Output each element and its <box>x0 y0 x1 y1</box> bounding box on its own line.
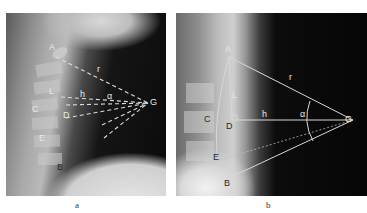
panel-caption-a: a <box>75 200 79 210</box>
label-alpha: α <box>300 110 305 119</box>
point-label-G: G <box>345 115 352 124</box>
point-label-C: C <box>32 105 39 114</box>
point-label-D: D <box>226 122 233 131</box>
point-label-B: B <box>57 163 63 172</box>
point-label-A: A <box>225 45 231 54</box>
label-r: r <box>289 73 292 82</box>
point-label-A: A <box>49 43 55 52</box>
point-label-L: L <box>232 91 237 100</box>
point-label-B: B <box>224 179 230 188</box>
point-label-C: C <box>204 115 211 124</box>
point-label-L: L <box>49 87 54 96</box>
label-h: h <box>262 110 267 119</box>
radiograph-panel-b: A r L h α G C D E B <box>176 13 367 196</box>
radiograph-panel-a: A r L h α G C D E B <box>6 13 166 196</box>
geometry-overlay-a <box>6 13 166 196</box>
point-label-E: E <box>39 134 45 143</box>
point-label-D: D <box>63 111 70 120</box>
label-r: r <box>97 65 100 74</box>
label-h: h <box>80 90 85 99</box>
geometry-overlay-b <box>176 13 367 196</box>
point-label-G: G <box>150 98 157 107</box>
label-alpha: α <box>107 92 112 101</box>
panel-caption-b: b <box>266 200 271 210</box>
point-label-E: E <box>213 153 219 162</box>
